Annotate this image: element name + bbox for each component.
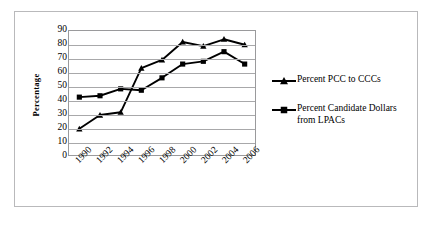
gridline	[69, 59, 255, 60]
y-axis-tick-label: 60	[58, 67, 68, 77]
y-axis-tick-label: 70	[58, 53, 68, 63]
plot-area	[68, 30, 256, 156]
data-point-marker	[139, 88, 144, 93]
legend-label: Percent Candidate Dollars from LPACs	[297, 103, 416, 126]
triangle-marker-icon	[271, 75, 297, 87]
y-axis-tick-label: 10	[58, 137, 68, 147]
legend-entry[interactable]: Percent PCC to CCCs	[271, 74, 416, 87]
y-axis-tick-label: 50	[58, 81, 68, 91]
y-axis-tick-label: 30	[58, 109, 68, 119]
gridline	[69, 129, 255, 130]
series-2	[77, 49, 247, 100]
chart-figure-frame: Percentage 9080706050403020100 199019921…	[14, 11, 418, 207]
data-point-marker	[159, 75, 164, 80]
gridline	[69, 115, 255, 116]
data-point-marker	[77, 95, 82, 100]
gridline	[69, 73, 255, 74]
data-point-marker	[242, 62, 247, 67]
data-point-marker	[180, 62, 185, 67]
chart-legend: Percent PCC to CCCsPercent Candidate Dol…	[271, 74, 416, 142]
line-chart: Percentage 9080706050403020100 199019921…	[15, 12, 419, 208]
y-axis-tick-label: 0	[62, 151, 67, 161]
gridline	[69, 143, 255, 144]
legend-entry[interactable]: Percent Candidate Dollars from LPACs	[271, 103, 416, 126]
y-axis-tick-label: 40	[58, 95, 68, 105]
y-axis-tick-labels: 9080706050403020100	[35, 30, 67, 156]
gridline	[69, 45, 255, 46]
y-axis-tick-label: 80	[58, 39, 68, 49]
legend-label: Percent PCC to CCCs	[297, 74, 381, 86]
series-layer	[69, 31, 255, 155]
x-axis-tick-labels: 199019921994199619982000200220042006	[68, 158, 256, 202]
data-point-marker	[221, 49, 226, 54]
y-axis-tick-label: 90	[58, 25, 68, 35]
gridline	[69, 87, 255, 88]
data-point-marker	[97, 93, 102, 98]
y-axis-tick-label: 20	[58, 123, 68, 133]
gridline	[69, 101, 255, 102]
square-marker-icon	[271, 104, 297, 116]
